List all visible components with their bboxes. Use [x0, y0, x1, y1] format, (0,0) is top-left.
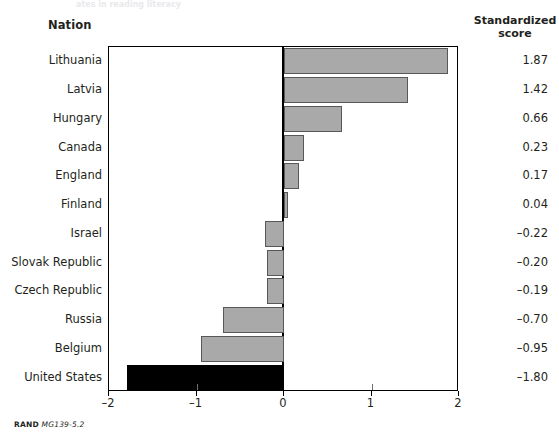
- bar-lithuania[interactable]: [284, 48, 448, 74]
- category-label-belgium: Belgium: [0, 335, 102, 361]
- score-value-england: 0.17: [470, 162, 548, 188]
- nation-column-header: Nation: [48, 18, 92, 32]
- bar-czech-republic[interactable]: [267, 278, 284, 304]
- bar-row: [109, 221, 457, 247]
- score-header-line-2: score: [472, 27, 558, 40]
- bar-latvia[interactable]: [284, 77, 408, 103]
- category-label-czech-republic: Czech Republic: [0, 277, 102, 303]
- x-tick-label: 2: [438, 396, 478, 410]
- rand-logo-text: RAND: [14, 420, 39, 429]
- bar-slovak-republic[interactable]: [267, 250, 285, 276]
- score-value-united-states: –1.80: [470, 364, 548, 390]
- score-value-lithuania: 1.87: [470, 47, 548, 73]
- score-value-russia: –0.70: [470, 306, 548, 332]
- bar-united-states[interactable]: [127, 365, 285, 391]
- bars-container: [109, 47, 457, 390]
- category-label-canada: Canada: [0, 134, 102, 160]
- bar-canada[interactable]: [284, 135, 304, 161]
- bar-row: [109, 250, 457, 276]
- bar-row: [109, 365, 457, 391]
- bar-belgium[interactable]: [201, 336, 284, 362]
- bar-finland[interactable]: [284, 192, 288, 218]
- bar-row: [109, 48, 457, 74]
- score-value-belgium: –0.95: [470, 335, 548, 361]
- bar-row: [109, 336, 457, 362]
- score-value-hungary: 0.66: [470, 105, 548, 131]
- category-label-england: England: [0, 162, 102, 188]
- category-label-lithuania: Lithuania: [0, 47, 102, 73]
- x-tick-label: 1: [351, 396, 391, 410]
- bar-row: [109, 192, 457, 218]
- category-label-hungary: Hungary: [0, 105, 102, 131]
- x-axis: –2–1012: [108, 391, 458, 413]
- category-label-russia: Russia: [0, 306, 102, 332]
- figure-credit: RAND MG139-5.2: [14, 420, 85, 429]
- bar-hungary[interactable]: [284, 106, 342, 132]
- category-label-column: LithuaniaLatviaHungaryCanadaEnglandFinla…: [0, 46, 102, 391]
- bar-row: [109, 106, 457, 132]
- standardized-score-column-header: Standardized score: [472, 14, 558, 40]
- score-header-line-1: Standardized: [472, 14, 558, 27]
- bar-israel[interactable]: [265, 221, 284, 247]
- x-tick-label: –2: [88, 396, 128, 410]
- category-label-israel: Israel: [0, 220, 102, 246]
- score-value-canada: 0.23: [470, 134, 548, 160]
- x-inner-tick-mark: [197, 384, 198, 390]
- x-tick-label: 0: [263, 396, 303, 410]
- score-value-czech-republic: –0.19: [470, 277, 548, 303]
- category-label-finland: Finland: [0, 191, 102, 217]
- bar-row: [109, 163, 457, 189]
- score-value-latvia: 1.42: [470, 76, 548, 102]
- category-label-slovak-republic: Slovak Republic: [0, 249, 102, 275]
- bar-row: [109, 77, 457, 103]
- bar-row: [109, 278, 457, 304]
- figure-number: MG139-5.2: [41, 420, 84, 429]
- chart-plot-area: [108, 46, 458, 391]
- x-tick-label: –1: [176, 396, 216, 410]
- score-value-slovak-republic: –0.20: [470, 249, 548, 275]
- x-inner-tick-mark: [372, 384, 373, 390]
- category-label-latvia: Latvia: [0, 76, 102, 102]
- cropped-caption-sliver: ates in reading literacy: [0, 0, 559, 9]
- bar-row: [109, 135, 457, 161]
- score-value-finland: 0.04: [470, 191, 548, 217]
- bar-russia[interactable]: [223, 307, 284, 333]
- bar-row: [109, 307, 457, 333]
- standardized-score-value-column: 1.871.420.660.230.170.04–0.22–0.20–0.19–…: [470, 46, 558, 391]
- score-value-israel: –0.22: [470, 220, 548, 246]
- bar-england[interactable]: [284, 163, 299, 189]
- category-label-united-states: United States: [0, 364, 102, 390]
